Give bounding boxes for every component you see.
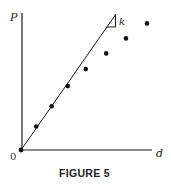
- slope-label: k: [119, 16, 125, 27]
- data-points: [19, 21, 150, 152]
- slope-line: [21, 14, 116, 150]
- y-axis-label: P: [9, 11, 18, 24]
- data-point: [19, 148, 24, 153]
- origin-label: 0: [10, 151, 16, 162]
- data-point: [84, 67, 89, 72]
- data-point: [145, 21, 150, 26]
- data-point: [34, 124, 39, 129]
- data-point: [66, 84, 71, 89]
- data-point: [49, 104, 54, 109]
- data-point: [124, 36, 129, 41]
- figure-5: P d 0 k FIGURE 5: [0, 0, 171, 184]
- data-point: [104, 51, 109, 56]
- x-axis-label: d: [156, 147, 163, 160]
- figure-caption: FIGURE 5: [59, 167, 110, 179]
